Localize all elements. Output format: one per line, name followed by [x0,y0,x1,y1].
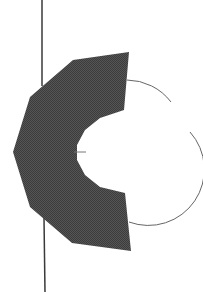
vertical-axis-line-bottom [44,218,45,292]
c-shaped-polygon [13,52,131,251]
diagram-canvas [0,0,203,292]
circle-arc-top [127,80,171,102]
circle-arc-right [129,132,203,225]
